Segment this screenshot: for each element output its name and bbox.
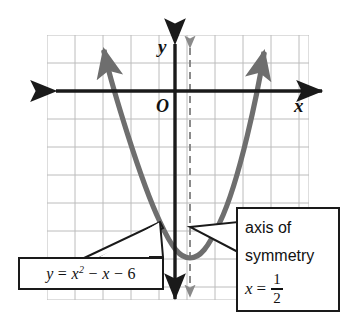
y-axis-label: y: [156, 36, 167, 57]
equation-x-squared-exponent: 2: [79, 264, 84, 275]
origin-label: O: [156, 96, 169, 116]
symmetry-line-2: symmetry: [245, 242, 338, 270]
symmetry-fraction-denominator: 2: [271, 291, 283, 306]
equation-minus-1: −: [89, 265, 98, 282]
figure-container: y x O y = x2 − x − 6 axis of symmetry x …: [0, 0, 357, 318]
equation-callout-box: y = x2 − x − 6: [18, 257, 164, 290]
symmetry-equals: =: [257, 279, 267, 299]
equation-equals: =: [58, 265, 67, 282]
equation-x-term: x: [102, 265, 109, 282]
equation-constant: 6: [128, 265, 136, 282]
symmetry-fraction-numerator: 1: [271, 272, 283, 287]
equation-callout-text: y = x2 − x − 6: [46, 264, 136, 283]
symmetry-line-1: axis of: [245, 214, 338, 242]
symmetry-callout-box: axis of symmetry x = 1 2: [236, 207, 340, 312]
equation-x-squared-base: x: [72, 265, 79, 282]
equation-minus-2: −: [114, 265, 123, 282]
symmetry-fraction: 1 2: [271, 272, 283, 306]
symmetry-variable: x: [245, 279, 253, 299]
x-axis-label: x: [293, 95, 304, 116]
equation-y-term: y: [46, 265, 53, 282]
symmetry-equation: x = 1 2: [245, 272, 338, 306]
